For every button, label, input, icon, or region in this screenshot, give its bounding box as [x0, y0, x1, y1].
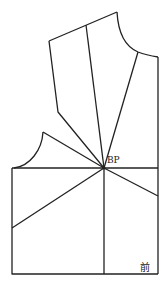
front-dart-line: [104, 168, 158, 196]
shoulder-line: [49, 12, 117, 41]
neckline-curve: [117, 12, 158, 57]
dart-line-neck: [104, 52, 138, 168]
front-label: 前: [140, 259, 150, 274]
bp-label: BP: [107, 155, 120, 165]
lower-box: [12, 168, 158, 274]
pattern-diagram: [0, 0, 166, 285]
dart-line-vertical: [86, 25, 104, 168]
side-dart-line: [12, 168, 104, 228]
armhole-curve: [14, 132, 43, 168]
armhole-dart-line: [43, 132, 104, 168]
bp-point: [102, 166, 105, 169]
